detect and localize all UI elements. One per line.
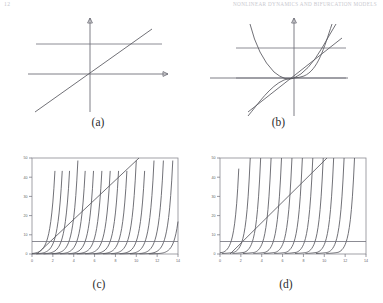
panel-b-axes <box>210 18 348 116</box>
panel-d-frame <box>220 158 366 254</box>
svg-text:8: 8 <box>302 259 304 263</box>
panel-d: 01020304050 02468101214 <box>196 152 376 280</box>
panel-c-plot: 01020304050 02468101214 <box>10 152 188 274</box>
figure-page: 12 Nonlinear Dynamics and Bifurcation Mo… <box>0 0 383 303</box>
curve-14 <box>130 161 163 254</box>
panel-c: 01020304050 02468101214 <box>10 152 188 280</box>
running-head-title: Nonlinear Dynamics and Bifurcation Model… <box>233 1 377 7</box>
svg-text:0: 0 <box>219 259 221 263</box>
svg-text:20: 20 <box>24 214 28 218</box>
panel-c-frame <box>32 158 178 254</box>
svg-text:6: 6 <box>94 259 96 263</box>
curve-4 <box>43 161 77 254</box>
panel-c-curve-family <box>32 161 178 254</box>
svg-text:8: 8 <box>114 259 116 263</box>
svg-text:0: 0 <box>31 259 33 263</box>
svg-text:2: 2 <box>52 259 54 263</box>
svg-text:10: 10 <box>212 233 216 237</box>
svg-text:0: 0 <box>214 252 216 256</box>
curve-1 <box>220 169 239 253</box>
panel-a-plot <box>18 12 178 120</box>
svg-text:12: 12 <box>155 259 159 263</box>
svg-text:4: 4 <box>261 259 263 263</box>
panel-d-x-ticks: 02468101214 <box>219 254 368 263</box>
svg-text:50: 50 <box>212 156 216 160</box>
curve-1 <box>32 171 55 254</box>
svg-text:14: 14 <box>364 259 368 263</box>
panel-b-caption: (b) <box>196 116 361 128</box>
panel-a-identity-line <box>35 29 152 112</box>
running-head: 12 Nonlinear Dynamics and Bifurcation Mo… <box>0 1 383 10</box>
svg-text:12: 12 <box>343 259 347 263</box>
panel-d-diagonal-line <box>230 158 327 254</box>
panel-a-caption: (a) <box>18 116 178 128</box>
svg-text:20: 20 <box>212 214 216 218</box>
page-folio: 12 <box>4 1 10 7</box>
panel-c-x-ticks: 02468101214 <box>31 254 180 263</box>
panel-d-y-ticks: 01020304050 <box>212 156 221 256</box>
svg-text:30: 30 <box>212 195 216 199</box>
panel-c-y-ticks: 01020304050 <box>24 156 33 256</box>
svg-text:10: 10 <box>322 259 326 263</box>
svg-text:0: 0 <box>26 252 28 256</box>
panel-b-identity-line <box>248 38 342 112</box>
svg-text:6: 6 <box>282 259 284 263</box>
panel-d-curve-family <box>220 158 355 254</box>
svg-text:50: 50 <box>24 156 28 160</box>
svg-text:30: 30 <box>24 195 28 199</box>
svg-text:14: 14 <box>176 259 180 263</box>
panel-d-caption: (d) <box>196 278 376 290</box>
svg-text:10: 10 <box>24 233 28 237</box>
panel-b-parabola <box>250 24 336 79</box>
svg-text:2: 2 <box>240 259 242 263</box>
svg-text:10: 10 <box>134 259 138 263</box>
svg-text:40: 40 <box>212 176 216 180</box>
svg-text:40: 40 <box>24 176 28 180</box>
panel-c-caption: (c) <box>10 278 188 290</box>
curve-16 <box>149 222 178 254</box>
svg-text:4: 4 <box>73 259 75 263</box>
panel-d-plot: 01020304050 02468101214 <box>196 152 376 274</box>
panel-b-plot <box>196 12 361 120</box>
